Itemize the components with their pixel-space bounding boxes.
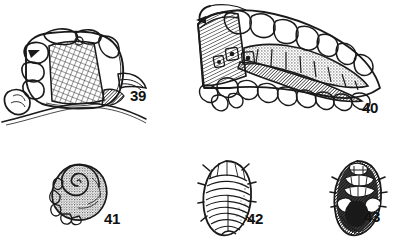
figure-40	[186, 2, 391, 122]
figure-label-43: 43	[364, 209, 380, 224]
figure-label-40: 40	[362, 100, 378, 115]
figure-39	[0, 8, 160, 133]
figure-43	[330, 158, 388, 240]
figure-42	[198, 158, 260, 240]
illustration-plate: 39	[0, 0, 399, 249]
figure-label-39: 39	[130, 88, 146, 103]
figure-label-42: 42	[247, 211, 263, 226]
figure-label-41: 41	[104, 211, 120, 226]
